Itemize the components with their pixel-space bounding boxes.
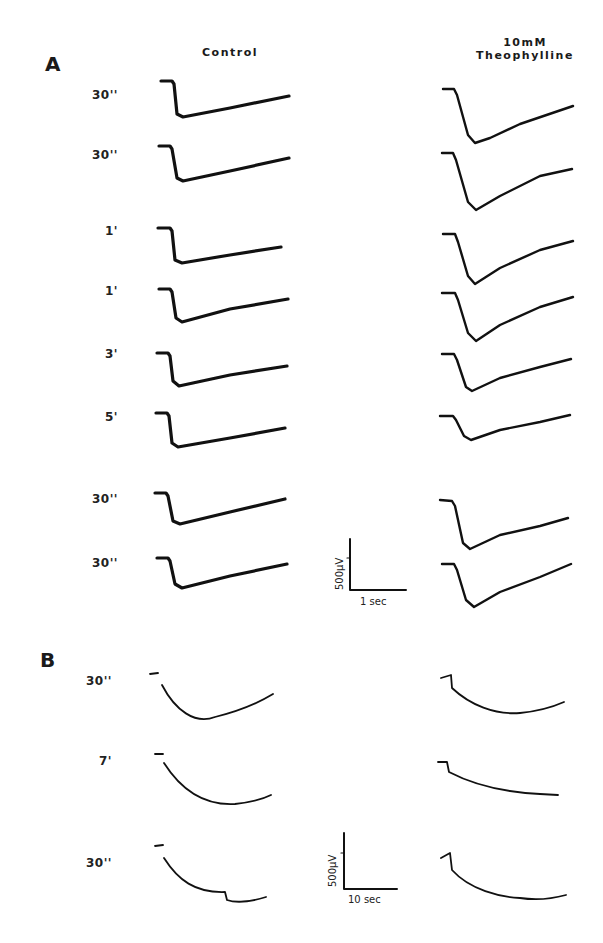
scale-b-horizontal-label: 10 sec: [348, 894, 381, 905]
electrophysiology-traces: [0, 0, 603, 943]
control-traces: [155, 81, 289, 588]
scale-b-vertical-label: 500µV: [327, 855, 338, 887]
scale-a-horizontal-label: 1 sec: [360, 596, 386, 607]
scale-bar-a: [347, 539, 406, 590]
theophylline-traces: [440, 89, 573, 607]
control-traces-b: [150, 673, 273, 902]
scale-bar-b: [341, 833, 397, 889]
theophylline-traces-b: [438, 675, 566, 899]
scale-a-vertical-label: 500µV: [334, 558, 345, 590]
